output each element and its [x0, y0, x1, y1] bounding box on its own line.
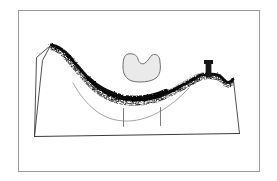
figure-root — [0, 0, 277, 181]
cloud-blob — [123, 54, 160, 82]
spike-tower-cap — [204, 60, 213, 64]
terrain-cross-section-figure — [0, 0, 277, 181]
spike-tower-shaft — [206, 62, 212, 78]
